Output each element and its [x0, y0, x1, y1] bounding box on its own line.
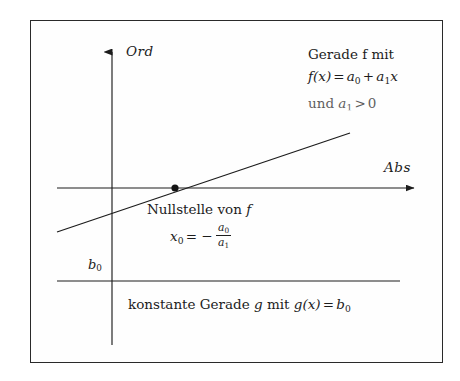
line-g-caption: konstante Gerade g mit g(x)=b0 [128, 297, 351, 313]
line-f-equation: f(x)=a0+a1x [308, 65, 398, 92]
zero-formula-equals: = [183, 228, 199, 244]
line-g-equals: = [321, 296, 337, 312]
line-f-fx: f(x) [308, 68, 331, 84]
line-g-b-subscript: 0 [345, 303, 351, 314]
line-g-gx: g(x) [294, 296, 321, 312]
zero-formula-denominator: a1 [216, 236, 231, 249]
figure-page: Ord Abs b0 Gerade f mit f(x)=a0+a1x und … [0, 0, 460, 381]
line-g-symbol: g [254, 296, 263, 312]
line-f-plus: + [361, 68, 377, 84]
line-f-condition-und: und [308, 95, 334, 111]
line-f-x: x [390, 68, 398, 84]
zero-formula-den-subscript: 1 [224, 241, 229, 250]
line-f-condition-relation: > [352, 95, 368, 111]
line-g-caption-text: konstante Gerade [128, 296, 250, 312]
zero-formula-numerator: a0 [216, 222, 231, 236]
zero-formula-fraction: a0a1 [216, 222, 231, 249]
zero-point-caption-symbol: f [246, 201, 251, 217]
b0-label-subscript: 0 [96, 263, 102, 273]
line-f-annotation: Gerade f mit f(x)=a0+a1x und a1>0 [308, 43, 398, 118]
ordinate-axis-label: Ord [126, 44, 154, 58]
line-f-plot [57, 133, 350, 232]
zero-point-marker [171, 184, 178, 191]
zero-point-formula: x0=−a0a1 [170, 222, 231, 249]
line-f-title: Gerade f mit [308, 43, 398, 65]
zero-formula-x: x [170, 228, 178, 244]
line-f-a0: a [347, 68, 355, 84]
zero-formula-minus: − [199, 228, 215, 244]
zero-formula-num-subscript: 0 [224, 226, 229, 235]
line-f-a0-subscript: 0 [355, 75, 361, 86]
line-f-condition-value: 0 [368, 95, 377, 111]
line-f-title-text: Gerade f mit [308, 46, 394, 62]
zero-point-caption: Nullstelle von f [147, 202, 251, 216]
line-f-eq: = [331, 68, 347, 84]
zero-point-caption-text: Nullstelle von [147, 201, 242, 217]
line-f-condition: und a1>0 [308, 92, 398, 119]
abscissa-axis-label: Abs [384, 160, 411, 174]
line-g-b: b [336, 296, 345, 312]
b0-intercept-label: b0 [88, 258, 102, 274]
line-g-mit: mit [267, 296, 290, 312]
